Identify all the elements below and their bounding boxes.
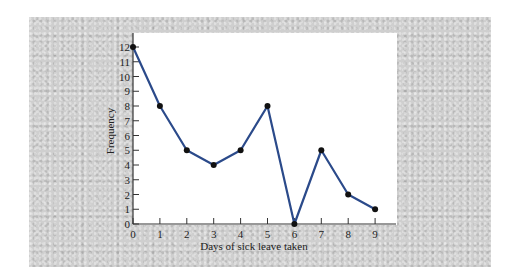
data-point-marker [184, 147, 190, 153]
x-tick-label: 0 [130, 228, 136, 240]
data-point-marker [372, 206, 378, 212]
data-point-marker [211, 162, 217, 168]
x-tick-label: 7 [319, 228, 325, 240]
x-tick-label: 9 [372, 228, 378, 240]
data-point-marker [345, 192, 351, 198]
data-point-marker [291, 221, 297, 227]
y-tick-label: 2 [125, 189, 131, 201]
data-point-marker [130, 44, 136, 50]
data-point-marker [157, 103, 163, 109]
frequency-line-chart: 0123456789101112 0123456789 Days of sick… [0, 0, 513, 279]
y-tick-label: 3 [125, 174, 131, 186]
x-tick-label: 2 [184, 228, 190, 240]
x-axis-ticks: 0123456789 [130, 218, 378, 240]
data-point-marker [318, 147, 324, 153]
y-tick-label: 1 [125, 203, 131, 215]
data-point-marker [238, 147, 244, 153]
x-tick-label: 6 [292, 228, 298, 240]
y-tick-label: 4 [125, 159, 131, 171]
y-tick-label: 8 [125, 100, 131, 112]
data-point-marker [265, 103, 271, 109]
y-axis-title: Frequency [104, 107, 116, 154]
y-tick-label: 9 [125, 85, 131, 97]
y-tick-label: 12 [119, 41, 130, 53]
x-tick-label: 1 [157, 228, 163, 240]
y-axis-ticks: 0123456789101112 [119, 41, 139, 230]
frequency-series-line [133, 47, 375, 224]
y-tick-label: 11 [119, 56, 130, 68]
x-axis-title: Days of sick leave taken [200, 240, 308, 252]
x-tick-label: 8 [345, 228, 351, 240]
y-tick-label: 5 [125, 144, 131, 156]
data-point-markers [130, 44, 378, 227]
x-tick-label: 5 [265, 228, 271, 240]
x-tick-label: 4 [238, 228, 244, 240]
x-tick-label: 3 [211, 228, 217, 240]
y-tick-label: 6 [125, 130, 131, 142]
y-tick-label: 10 [119, 71, 131, 83]
y-tick-label: 7 [125, 115, 131, 127]
